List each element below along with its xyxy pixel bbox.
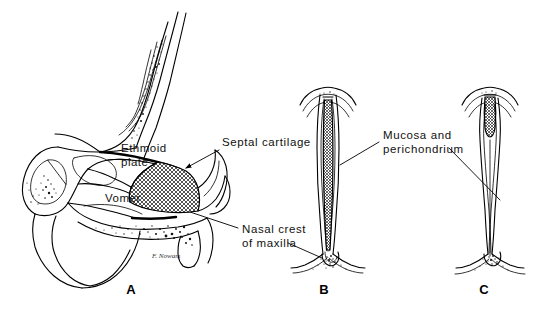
cancellous-bone-stipple xyxy=(26,43,192,245)
panel-letter-a: A xyxy=(126,282,136,297)
label-ethmoid-plate-line1: Ethmoid xyxy=(121,142,167,154)
anatomical-illustration: F. Nowam xyxy=(0,0,548,310)
label-ethmoid-plate-line2: plate xyxy=(121,156,148,168)
panel-b-septal-cartilage-column xyxy=(323,100,333,250)
septal-cartilage-region xyxy=(129,162,199,213)
label-nasal-crest-line2: of maxilla xyxy=(242,237,297,249)
leader-nasal-crest-of-maxilla xyxy=(190,212,238,228)
panel-c-group xyxy=(455,87,525,274)
panel-c-residual-cartilage xyxy=(484,97,496,137)
leader-mucosa-to-panel-c xyxy=(449,148,500,200)
panel-c-base-flare xyxy=(455,254,525,274)
artist-signature: F. Nowam xyxy=(151,252,180,260)
nasal-tip-lobule xyxy=(210,150,230,214)
figure-root: F. Nowam xyxy=(0,0,548,310)
panel-b-base-flare xyxy=(291,254,365,273)
label-vomer: Vomer xyxy=(105,192,141,204)
label-mucosa-line1: Mucosa and xyxy=(383,129,452,141)
nasal-dorsum-profile xyxy=(136,12,186,158)
panel-letter-c: C xyxy=(479,282,489,297)
label-mucosa-line2: perichondrium xyxy=(383,143,464,155)
panel-c-roof-stipple xyxy=(482,90,497,93)
panel-letter-b: B xyxy=(319,282,328,297)
panel-b-group xyxy=(291,87,365,273)
soft-palate-curve xyxy=(33,214,140,288)
leader-mucosa-to-panel-b xyxy=(340,142,379,165)
label-septal-cartilage: Septal cartilage xyxy=(222,136,311,148)
panel-b-crest-stipple xyxy=(313,255,347,269)
nasal-crest-of-maxilla-ridge xyxy=(132,217,176,219)
label-nasal-crest-line1: Nasal crest xyxy=(242,223,306,235)
